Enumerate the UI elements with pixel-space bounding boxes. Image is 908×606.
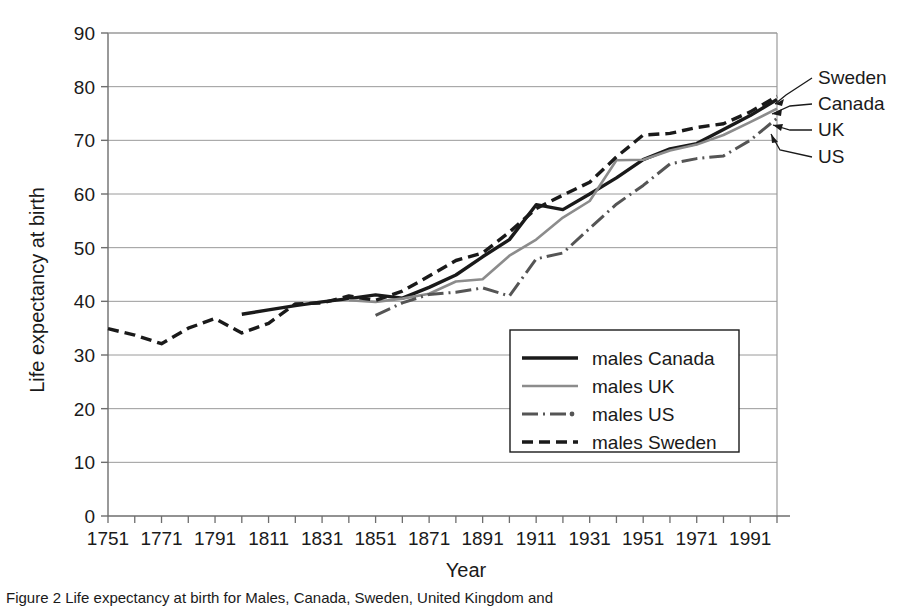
series-end-label-uk: UK bbox=[818, 119, 845, 140]
series-end-label-canada: Canada bbox=[818, 93, 885, 114]
x-tick-label: 1971 bbox=[676, 528, 718, 549]
series-end-label-us: US bbox=[818, 146, 844, 167]
y-tick-label: 60 bbox=[74, 184, 95, 205]
figure-container: 0102030405060708090 17511771179118111831… bbox=[0, 0, 908, 606]
x-tick-label: 1951 bbox=[622, 528, 664, 549]
legend-swatch-dot-2 bbox=[570, 412, 575, 417]
y-tick-label: 10 bbox=[74, 452, 95, 473]
x-axis-title: Year bbox=[446, 559, 487, 581]
legend-label-0: males Canada bbox=[592, 348, 715, 369]
y-tick-label: 20 bbox=[74, 399, 95, 420]
y-tick-label: 0 bbox=[84, 506, 95, 527]
y-tick-label: 30 bbox=[74, 345, 95, 366]
line-chart: 0102030405060708090 17511771179118111831… bbox=[0, 0, 908, 606]
figure-caption: Figure 2 Life expectancy at birth for Ma… bbox=[0, 588, 908, 606]
x-tick-label: 1811 bbox=[248, 528, 289, 549]
x-tick-label: 1871 bbox=[408, 528, 450, 549]
x-tick-label: 1891 bbox=[461, 528, 503, 549]
x-tick-label: 1911 bbox=[516, 528, 557, 549]
x-tick-label: 1931 bbox=[569, 528, 611, 549]
x-tick-label: 1771 bbox=[140, 528, 182, 549]
x-tick-label: 1991 bbox=[729, 528, 771, 549]
x-tick-label: 1751 bbox=[87, 528, 129, 549]
x-tick-label: 1831 bbox=[301, 528, 343, 549]
x-tick-label: 1791 bbox=[194, 528, 236, 549]
y-tick-label: 50 bbox=[74, 238, 95, 259]
x-tick-label: 1851 bbox=[354, 528, 396, 549]
legend-label-3: males Sweden bbox=[592, 432, 717, 453]
legend: males Canadamales UKmales USmales Sweden bbox=[510, 330, 739, 453]
y-tick-label: 70 bbox=[74, 130, 95, 151]
series-end-labels: Sweden Canada UK US bbox=[771, 67, 887, 167]
y-axis-ticks: 0102030405060708090 bbox=[74, 23, 108, 527]
legend-label-2: males US bbox=[592, 404, 674, 425]
x-axis-ticks: 1751177117911811183118511871189119111931… bbox=[87, 516, 777, 549]
series-end-label-sweden: Sweden bbox=[818, 67, 887, 88]
y-tick-label: 80 bbox=[74, 77, 95, 98]
y-tick-label: 40 bbox=[74, 291, 95, 312]
y-tick-label: 90 bbox=[74, 23, 95, 44]
y-axis-title: Life expectancy at birth bbox=[26, 187, 48, 393]
legend-label-1: males UK bbox=[592, 376, 675, 397]
leader-line-sweden bbox=[775, 78, 812, 104]
